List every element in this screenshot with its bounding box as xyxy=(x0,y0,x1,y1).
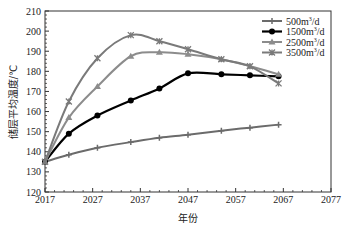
legend-item: 3500m3/d xyxy=(262,47,325,58)
marker-plus xyxy=(128,139,134,145)
legend-label: 3500m3/d xyxy=(286,47,325,58)
marker-plus xyxy=(269,18,275,24)
marker-star xyxy=(66,99,72,105)
x-tick-label: 2037 xyxy=(130,194,150,205)
series-2500md xyxy=(42,49,283,165)
x-tick-label: 2017 xyxy=(35,194,55,205)
legend: 500m3/d1500m3/d2500m3/d3500m3/d xyxy=(262,16,325,59)
marker-star xyxy=(276,80,282,86)
y-tick-label: 170 xyxy=(26,86,41,97)
marker-plus xyxy=(156,135,162,141)
x-tick-label: 2067 xyxy=(273,194,293,205)
marker-plus xyxy=(94,145,100,151)
legend-item: 1500m3/d xyxy=(262,26,325,37)
marker-circle xyxy=(94,113,100,119)
y-tick-label: 210 xyxy=(26,6,41,17)
y-tick-label: 200 xyxy=(26,26,41,37)
y-tick-label: 180 xyxy=(26,66,41,77)
x-axis-title: 年份 xyxy=(178,212,198,224)
series-line xyxy=(45,72,279,161)
y-tick-label: 190 xyxy=(26,46,41,57)
series-line xyxy=(45,52,279,162)
series-line xyxy=(45,125,279,162)
x-tick-label: 2047 xyxy=(178,194,198,205)
y-tick-label: 150 xyxy=(26,126,41,137)
marker-star xyxy=(94,55,100,61)
marker-plus xyxy=(66,152,72,158)
marker-plus xyxy=(247,125,253,131)
legend-label: 2500m3/d xyxy=(286,37,325,48)
marker-plus xyxy=(185,132,191,138)
legend-label: 500m3/d xyxy=(286,16,320,27)
y-tick-label: 160 xyxy=(26,106,41,117)
y-tick-label: 130 xyxy=(26,166,41,177)
x-tick-label: 2057 xyxy=(226,194,246,205)
x-tick-label: 2077 xyxy=(321,194,341,205)
marker-circle xyxy=(66,131,72,137)
legend-item: 500m3/d xyxy=(262,16,320,27)
marker-circle xyxy=(185,70,191,76)
series-lines xyxy=(42,32,283,165)
y-tick-label: 140 xyxy=(26,146,41,157)
legend-item: 2500m3/d xyxy=(262,37,325,48)
marker-circle xyxy=(247,72,253,78)
marker-circle xyxy=(128,97,134,103)
marker-plus xyxy=(218,128,224,134)
marker-circle xyxy=(218,71,224,77)
marker-circle xyxy=(156,85,162,91)
marker-circle xyxy=(269,29,275,35)
marker-plus xyxy=(276,122,282,128)
x-tick-label: 2027 xyxy=(83,194,103,205)
y-axis-title: 储层平均温度/℃ xyxy=(7,65,19,140)
legend-label: 1500m3/d xyxy=(286,26,325,37)
line-chart: 1201301401501601701801902002102017202720… xyxy=(0,0,348,230)
